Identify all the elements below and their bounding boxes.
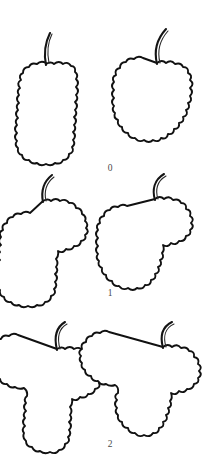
stem-icon xyxy=(156,29,166,64)
bunch-winged-conical-right xyxy=(96,174,193,290)
bunch-shape-plate: 0 1 xyxy=(0,0,221,473)
bunch-row-2: 2 xyxy=(0,322,201,453)
bunch-outline xyxy=(0,199,88,307)
class-label-2: 2 xyxy=(108,439,113,449)
bunch-double-winged-conical-right xyxy=(79,322,201,436)
bunch-conical-right xyxy=(112,29,193,142)
bunch-shape-figure: 0 1 xyxy=(0,0,221,473)
class-label-0: 0 xyxy=(108,163,113,173)
bunch-row-0: 0 xyxy=(15,29,193,173)
bunch-outline xyxy=(15,62,78,166)
bunch-outline xyxy=(112,57,193,142)
bunch-cylindrical-left xyxy=(15,33,78,165)
bunch-row-1: 1 xyxy=(0,174,193,307)
bunch-winged-cylindrical-left xyxy=(0,175,88,307)
bunch-outline xyxy=(96,197,193,290)
stem-icon xyxy=(42,175,52,202)
class-label-1: 1 xyxy=(108,288,113,298)
stem-icon xyxy=(45,33,50,65)
